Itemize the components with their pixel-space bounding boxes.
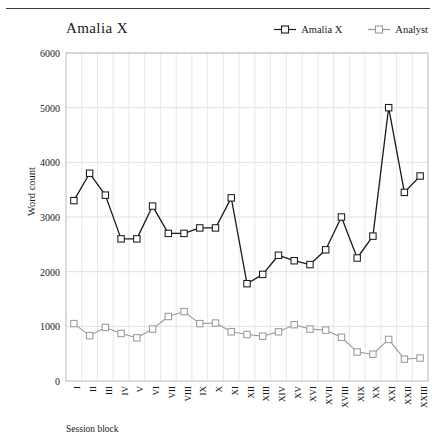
- x-tick-label: XIII: [261, 386, 271, 402]
- x-tick-label: VI: [151, 386, 161, 396]
- legend-item-amalia: Amalia X: [274, 24, 342, 35]
- legend-marker-icon: [368, 24, 390, 35]
- y-tick-label: 0: [16, 376, 60, 387]
- x-tick-label: X: [214, 386, 224, 393]
- x-tick-label: XVI: [308, 386, 318, 402]
- legend-item-analyst: Analyst: [368, 24, 428, 35]
- x-tick-label: III: [104, 386, 114, 395]
- legend-label: Amalia X: [301, 24, 342, 35]
- x-tick-label: XXIII: [419, 386, 429, 408]
- x-axis-ticks: IIIIIIIVVVIVIIVIIIIXXXIXIIXIIIXIVXVXVIXV…: [0, 386, 436, 426]
- x-tick-label: IX: [198, 386, 208, 396]
- y-tick-label: 4000: [16, 157, 60, 168]
- x-tick-label: I: [72, 386, 82, 389]
- legend-label: Analyst: [395, 24, 428, 35]
- x-tick-label: XX: [371, 386, 381, 399]
- x-tick-label: XV: [293, 386, 303, 399]
- y-tick-label: 1000: [16, 321, 60, 332]
- y-tick-label: 5000: [16, 102, 60, 113]
- x-tick-label: XVIII: [340, 386, 350, 408]
- x-tick-label: XII: [246, 386, 256, 399]
- x-tick-label: XXI: [387, 386, 397, 402]
- header-rule: [6, 8, 430, 9]
- x-tick-label: V: [135, 386, 145, 393]
- x-tick-label: XVII: [324, 386, 334, 405]
- x-tick-label: II: [88, 386, 98, 392]
- x-tick-label: IV: [120, 386, 130, 396]
- x-tick-label: XI: [230, 386, 240, 396]
- x-tick-label: XIV: [277, 386, 287, 402]
- legend-marker-icon: [274, 24, 296, 35]
- x-tick-label: XIX: [356, 386, 366, 402]
- y-tick-label: 3000: [16, 212, 60, 223]
- y-tick-label: 6000: [16, 48, 60, 59]
- chart-legend: Amalia X Analyst: [274, 24, 428, 35]
- y-axis-ticks: 6000500040003000200010000: [14, 0, 60, 447]
- x-tick-label: VIII: [183, 386, 193, 402]
- plot-area: [0, 0, 436, 447]
- x-tick-label: XXII: [403, 386, 413, 405]
- x-tick-label: VII: [167, 386, 177, 399]
- page-title: Amalia X: [66, 20, 128, 37]
- y-tick-label: 2000: [16, 266, 60, 277]
- chart-figure: Amalia X Amalia X Analyst Word count Ses…: [0, 0, 436, 447]
